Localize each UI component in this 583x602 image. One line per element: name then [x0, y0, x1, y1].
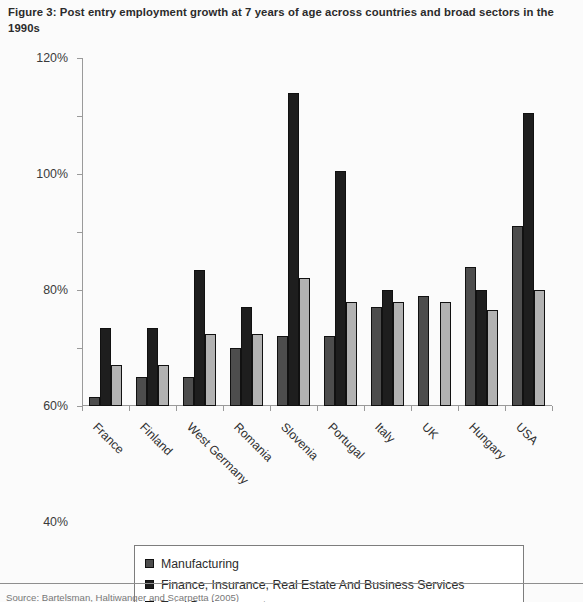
x-tick — [270, 406, 271, 411]
bar-group — [176, 58, 223, 406]
bar — [324, 336, 335, 406]
bar — [299, 278, 310, 406]
x-axis-label: Hungary — [466, 420, 508, 462]
bar — [111, 365, 122, 406]
footer-divider — [0, 583, 583, 584]
bar — [89, 397, 100, 406]
bar-group — [82, 58, 129, 406]
y-tick-label: 120% — [36, 51, 68, 65]
bar — [136, 377, 147, 406]
x-tick — [458, 406, 459, 411]
bar-group — [505, 58, 552, 406]
bar — [346, 302, 357, 406]
x-axis-label: Portugal — [325, 420, 367, 462]
bar — [230, 348, 241, 406]
x-tick — [129, 406, 130, 411]
x-tick — [223, 406, 224, 411]
x-axis-label: Italy — [372, 420, 398, 446]
bar — [277, 336, 288, 406]
bar — [147, 328, 158, 406]
x-axis-label: Slovenia — [278, 420, 321, 463]
x-axis-label: Romania — [231, 420, 275, 464]
bar — [440, 302, 451, 406]
y-tick-label: 40% — [43, 515, 68, 529]
source-note: Source: Bartelsman, Haltiwanger and Scar… — [6, 592, 239, 602]
legend-item-manufacturing: Manufacturing — [145, 553, 523, 574]
figure-caption: Figure 3: Post entry employment growth a… — [8, 4, 568, 36]
bar-group — [364, 58, 411, 406]
bar — [335, 171, 346, 406]
bar — [523, 113, 534, 406]
chart-container: 0%20%40%60%80%100%120% FranceFinlandWest… — [0, 44, 583, 574]
bar-group — [411, 58, 458, 406]
bar — [534, 290, 545, 406]
bar — [100, 328, 111, 406]
y-tick-label: 100% — [36, 167, 68, 181]
bar — [205, 334, 216, 407]
bar — [512, 226, 523, 406]
x-tick — [176, 406, 177, 411]
plot-area: 0%20%40%60%80%100%120% — [82, 58, 552, 406]
bar-group — [317, 58, 364, 406]
bar-group — [458, 58, 505, 406]
bar-group — [129, 58, 176, 406]
legend-swatch-finance — [145, 580, 154, 589]
bar — [465, 267, 476, 406]
x-axis-label: France — [90, 420, 127, 457]
legend-label-manufacturing: Manufacturing — [161, 557, 239, 571]
bar — [241, 307, 252, 406]
x-axis-label: Finland — [137, 420, 175, 458]
bar — [476, 290, 487, 406]
x-tick — [317, 406, 318, 411]
x-axis-label: UK — [419, 420, 441, 442]
bar-group — [223, 58, 270, 406]
legend-swatch-manufacturing — [145, 559, 154, 568]
bar — [183, 377, 194, 406]
x-axis-label: USA — [513, 420, 541, 448]
legend-label-finance: Finance, Insurance, Real Estate And Busi… — [161, 578, 464, 592]
x-tick — [411, 406, 412, 411]
bar — [418, 296, 429, 406]
figure-page: Figure 3: Post entry employment growth a… — [0, 0, 583, 602]
x-tick — [552, 406, 553, 411]
x-axis-labels: FranceFinlandWest GermanyRomaniaSlovenia… — [82, 420, 552, 510]
bar-group — [270, 58, 317, 406]
y-tick-label: 80% — [43, 283, 68, 297]
y-tick-label: 60% — [43, 399, 68, 413]
bar — [393, 302, 404, 406]
bar — [371, 307, 382, 406]
bar — [252, 334, 263, 407]
bar — [487, 310, 498, 406]
bar — [382, 290, 393, 406]
bar — [194, 270, 205, 406]
x-tick — [505, 406, 506, 411]
x-tick — [364, 406, 365, 411]
bar — [288, 93, 299, 406]
bar — [158, 365, 169, 406]
x-tick — [82, 406, 83, 411]
